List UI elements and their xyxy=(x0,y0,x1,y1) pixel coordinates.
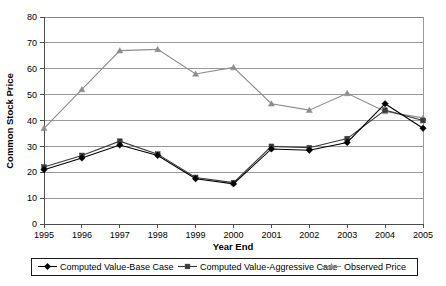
chart-container: 01020304050607080 1995199619971998199920… xyxy=(0,0,446,286)
y-tick-label: 30 xyxy=(27,142,37,152)
x-tick-label: 2001 xyxy=(261,230,281,240)
y-tick-label: 20 xyxy=(27,167,37,177)
x-tick-label: 2004 xyxy=(375,230,395,240)
y-tick-label: 70 xyxy=(27,38,37,48)
series-line xyxy=(44,49,423,128)
data-point-marker-square xyxy=(185,264,190,269)
data-series-layer xyxy=(41,46,426,187)
x-tick-label: 2003 xyxy=(337,230,357,240)
data-point-marker-diamond xyxy=(420,125,426,131)
y-axis-tick-labels: 01020304050607080 xyxy=(27,12,37,229)
x-axis-tick-labels: 1995199619971998199920002001200220032004… xyxy=(34,230,433,240)
x-tick-label: 1998 xyxy=(148,230,168,240)
data-point-marker-square xyxy=(421,118,426,123)
data-point-marker-triangle xyxy=(231,64,237,69)
y-tick-label: 10 xyxy=(27,193,37,203)
x-tick-label: 2002 xyxy=(299,230,319,240)
x-tick-label: 1995 xyxy=(34,230,54,240)
data-point-marker-square xyxy=(383,108,388,113)
y-axis-title: Common Stock Price xyxy=(4,73,15,169)
line-chart: 01020304050607080 1995199619971998199920… xyxy=(0,0,446,286)
legend-label: Computed Value-Base Case xyxy=(60,262,173,272)
gridlines-group xyxy=(44,17,423,224)
data-point-marker-triangle xyxy=(344,90,350,95)
legend-label: Computed Value-Aggressive Case xyxy=(200,262,337,272)
y-tick-label: 50 xyxy=(27,90,37,100)
y-tick-label: 60 xyxy=(27,64,37,74)
legend-label: Observed Price xyxy=(344,262,406,272)
series-computed-value-base-case xyxy=(41,100,426,187)
y-tickmarks-group xyxy=(40,17,44,224)
x-tickmarks-group xyxy=(44,224,423,228)
x-axis-title: Year End xyxy=(213,241,254,252)
legend-item-2[interactable]: Computed Value-Aggressive Case xyxy=(178,262,337,272)
y-tick-label: 40 xyxy=(27,116,37,126)
chart-legend: Computed Value-Base CaseComputed Value-A… xyxy=(31,258,417,275)
y-tick-label: 80 xyxy=(27,12,37,22)
x-tick-label: 1997 xyxy=(110,230,130,240)
y-tick-label: 0 xyxy=(32,219,37,229)
x-tick-label: 2000 xyxy=(223,230,243,240)
series-observed-price xyxy=(41,46,426,130)
x-tick-label: 1999 xyxy=(186,230,206,240)
x-tick-label: 1996 xyxy=(72,230,92,240)
x-tick-label: 2005 xyxy=(413,230,433,240)
